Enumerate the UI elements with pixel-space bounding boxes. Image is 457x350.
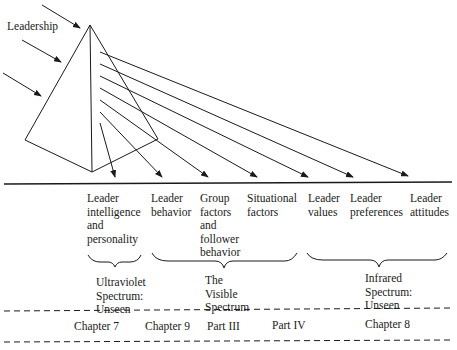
component-leader-attitudes: Leaderattitudes	[410, 192, 449, 219]
spectrum-infrared: InfraredSpectrum:Unseen	[365, 272, 412, 313]
component-group-factors: Groupfactorsandfollowerbehavior	[200, 192, 240, 260]
component-leader-values: Leadervalues	[308, 192, 340, 219]
ray-arrow	[100, 88, 257, 177]
spectrum-visible: TheVisibleSpectrum	[205, 274, 249, 315]
component-leader-intelligence: Leaderintelligenceandpersonality	[87, 192, 141, 246]
ray-arrow	[100, 100, 208, 177]
chapter-label: Part IV	[272, 319, 306, 333]
chapter-label: Chapter 7	[74, 320, 119, 334]
leadership-label: Leadership	[7, 20, 58, 34]
chapter-label: Chapter 8	[365, 318, 410, 332]
brace-ultraviolet	[88, 255, 141, 267]
chapter-label: Chapter 9	[145, 320, 190, 334]
incoming-arrow	[3, 73, 41, 96]
baseline	[4, 182, 452, 184]
brace-infrared	[307, 253, 447, 267]
spectrum-ultraviolet: UltravioletSpectrum:Unseen	[96, 276, 146, 317]
chapter-label: Part III	[207, 320, 240, 334]
dashed-divider-bottom	[4, 340, 452, 342]
pyramid-prism	[25, 25, 158, 172]
component-leader-preferences: Leaderpreferences	[350, 192, 403, 219]
ray-arrow	[100, 76, 308, 177]
component-situational-factors: Situationalfactors	[247, 192, 297, 219]
component-leader-behavior: Leaderbehavior	[151, 192, 191, 219]
incoming-arrow	[22, 40, 61, 62]
ray-arrow	[100, 123, 115, 177]
